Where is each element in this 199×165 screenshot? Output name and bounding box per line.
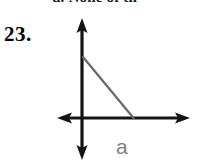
problem-figure-page: d. None of th 23. a [0, 0, 199, 165]
axes-triangle-svg [0, 0, 199, 165]
triangle-hypotenuse-line [83, 57, 134, 118]
side-label-a: a [116, 136, 128, 158]
geometry-figure [0, 0, 199, 165]
